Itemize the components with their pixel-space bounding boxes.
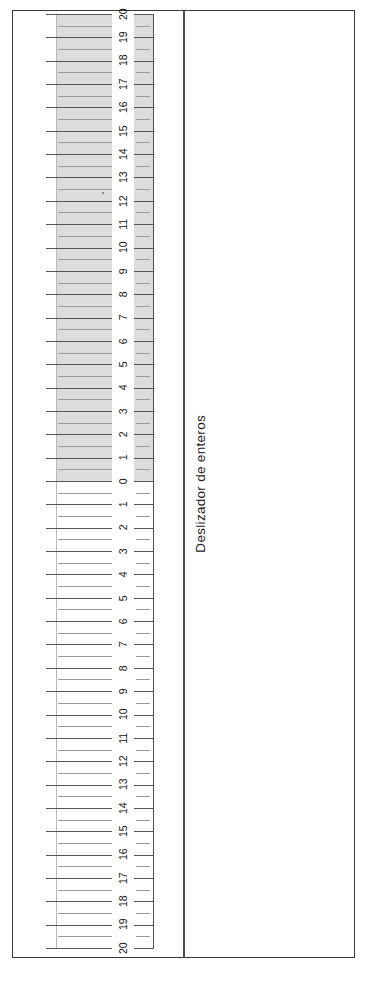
tick-major-left — [46, 551, 112, 552]
tick-major-right — [134, 388, 154, 389]
tick-major-left — [46, 318, 112, 319]
tick-major-right — [134, 761, 154, 762]
tick-minor-left — [58, 353, 112, 354]
tick-minor-left — [58, 236, 112, 237]
tick-major-left — [46, 644, 112, 645]
tick-minor-left — [58, 539, 112, 540]
tick-minor-right — [136, 493, 150, 494]
tick-major-right — [134, 551, 154, 552]
tick-major-left — [46, 785, 112, 786]
tick-minor-right — [136, 539, 150, 540]
tick-major-left — [46, 855, 112, 856]
tick-minor-left — [58, 446, 112, 447]
tick-minor-right — [136, 306, 150, 307]
tick-minor-right — [136, 72, 150, 73]
tick-major-right — [134, 481, 154, 482]
tick-major-right — [134, 668, 154, 669]
tick-major-left — [46, 294, 112, 295]
integer-slider-ruler[interactable]: 2019181716151413121110987654321012345678… — [44, 14, 154, 948]
tick-minor-right — [136, 399, 150, 400]
tick-minor-left — [58, 96, 112, 97]
tick-major-right — [134, 107, 154, 108]
tick-minor-left — [58, 516, 112, 517]
tick-major-left — [46, 61, 112, 62]
tick-major-left — [46, 948, 112, 949]
tick-minor-left — [58, 563, 112, 564]
tick-minor-left — [58, 72, 112, 73]
tick-major-left — [46, 131, 112, 132]
tick-minor-left — [58, 913, 112, 914]
tick-minor-left — [58, 469, 112, 470]
tick-minor-right — [136, 119, 150, 120]
tick-major-right — [134, 621, 154, 622]
tick-minor-right — [136, 913, 150, 914]
tick-minor-left — [58, 843, 112, 844]
tick-major-left — [46, 107, 112, 108]
tick-minor-right — [136, 189, 150, 190]
tick-minor-left — [58, 493, 112, 494]
tick-major-left — [46, 364, 112, 365]
tick-minor-left — [58, 750, 112, 751]
tick-minor-right — [136, 516, 150, 517]
tick-minor-left — [58, 49, 112, 50]
tick-minor-left — [58, 212, 112, 213]
tick-major-left — [46, 201, 112, 202]
tick-major-left — [46, 901, 112, 902]
tick-major-left — [46, 341, 112, 342]
tick-major-left — [46, 481, 112, 482]
tick-minor-right — [136, 796, 150, 797]
tick-major-left — [46, 37, 112, 38]
tick-minor-left — [58, 936, 112, 937]
tick-major-left — [46, 177, 112, 178]
tick-minor-left — [58, 656, 112, 657]
tick-major-right — [134, 294, 154, 295]
tick-minor-left — [58, 726, 112, 727]
tick-major-right — [134, 14, 154, 15]
tick-minor-right — [136, 750, 150, 751]
tick-major-left — [46, 831, 112, 832]
tick-minor-left — [58, 142, 112, 143]
tick-major-right — [134, 925, 154, 926]
tick-minor-left — [58, 399, 112, 400]
tick-minor-left — [58, 890, 112, 891]
tick-minor-left — [58, 306, 112, 307]
tick-minor-left — [58, 189, 112, 190]
tick-major-left — [46, 154, 112, 155]
tick-minor-right — [136, 423, 150, 424]
tick-major-right — [134, 644, 154, 645]
tick-major-left — [46, 528, 112, 529]
tick-minor-left — [58, 166, 112, 167]
tick-minor-left — [58, 633, 112, 634]
tick-major-right — [134, 598, 154, 599]
tick-major-right — [134, 715, 154, 716]
tick-minor-right — [136, 142, 150, 143]
tick-minor-left — [58, 329, 112, 330]
tick-minor-left — [58, 773, 112, 774]
tick-major-left — [46, 691, 112, 692]
panel-divider — [183, 11, 185, 958]
tick-major-left — [46, 574, 112, 575]
tick-major-left — [46, 224, 112, 225]
tick-major-left — [46, 411, 112, 412]
tick-minor-right — [136, 633, 150, 634]
tick-minor-right — [136, 586, 150, 587]
tick-minor-left — [58, 679, 112, 680]
tick-minor-left — [58, 820, 112, 821]
tick-minor-right — [136, 283, 150, 284]
tick-major-right — [134, 411, 154, 412]
tick-major-right — [134, 177, 154, 178]
tick-major-right — [134, 504, 154, 505]
tick-minor-left — [58, 259, 112, 260]
tick-major-left — [46, 84, 112, 85]
tick-major-right — [134, 224, 154, 225]
tick-minor-left — [58, 866, 112, 867]
tick-minor-right — [136, 726, 150, 727]
tick-major-right — [134, 808, 154, 809]
tick-minor-left — [58, 796, 112, 797]
tick-major-left — [46, 598, 112, 599]
tick-minor-right — [136, 773, 150, 774]
tick-major-right — [134, 341, 154, 342]
tick-major-right — [134, 201, 154, 202]
tick-minor-left — [58, 26, 112, 27]
tick-major-left — [46, 878, 112, 879]
